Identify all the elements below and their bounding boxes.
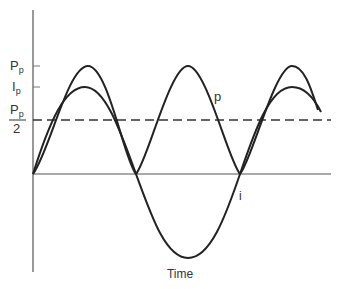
waveform-diagram: Pp Ip Pp 2 p i Time bbox=[0, 0, 339, 289]
current-curve bbox=[33, 87, 321, 258]
x-axis-label: Time bbox=[167, 267, 194, 281]
label-power: p bbox=[214, 89, 221, 104]
label-half-pp-den: 2 bbox=[13, 121, 20, 136]
label-half-pp-num: Pp bbox=[10, 102, 24, 119]
label-current: i bbox=[239, 189, 242, 203]
label-pp: Pp bbox=[10, 58, 24, 75]
label-ip: Ip bbox=[12, 79, 21, 96]
